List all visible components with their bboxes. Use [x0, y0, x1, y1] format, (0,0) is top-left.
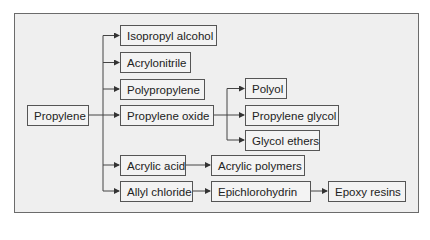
node-allyl-chloride: Allyl chloride [120, 181, 193, 202]
node-isopropyl-alcohol: Isopropyl alcohol [120, 25, 217, 46]
node-propylene-glycol: Propylene glycol [245, 105, 339, 126]
node-polypropylene: Polypropylene [120, 79, 205, 100]
node-acrylic-polymers: Acrylic polymers [211, 155, 305, 176]
node-polyol: Polyol [245, 78, 287, 99]
node-propylene: Propylene [27, 105, 89, 126]
node-glycol-ethers: Glycol ethers [245, 130, 320, 151]
node-epoxy-resins: Epoxy resins [328, 181, 406, 202]
node-propylene-oxide: Propylene oxide [120, 105, 214, 126]
node-acrylic-acid: Acrylic acid [120, 155, 186, 176]
node-epichlorohydrin: Epichlorohydrin [211, 181, 311, 202]
node-acrylonitrile: Acrylonitrile [120, 52, 191, 73]
